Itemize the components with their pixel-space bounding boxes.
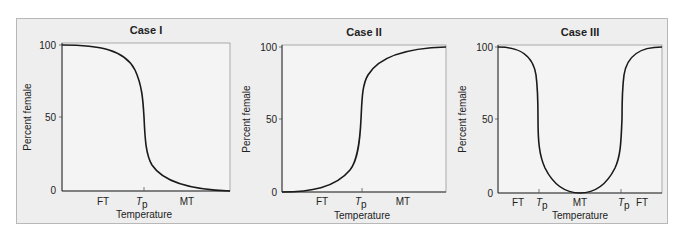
plot-area <box>498 45 662 193</box>
x-tick-ft-right: FT <box>636 197 648 208</box>
chart-title: Case II <box>346 26 381 38</box>
x-axis-label: Temperature <box>334 210 391 221</box>
svg-text:p: p <box>542 200 548 211</box>
chart-case-3: Case III 100 50 0 FT T p MT T p FT Tempe… <box>457 26 662 221</box>
y-axis-label: Percent female <box>457 85 468 153</box>
y-tick-0: 0 <box>487 188 493 199</box>
x-tick-tp: T p <box>136 196 148 210</box>
x-axis-label: Temperature <box>552 210 609 221</box>
y-tick-100: 100 <box>260 42 277 53</box>
x-tick-ft: FT <box>316 196 328 207</box>
figure-svg: Case I 100 50 0 FT T p MT Temperature Pe… <box>0 0 684 237</box>
y-axis-label: Percent female <box>241 85 252 153</box>
plot-area <box>62 43 230 191</box>
x-tick-ft: FT <box>97 196 109 207</box>
y-axis-label: Percent female <box>22 83 33 151</box>
y-tick-50: 50 <box>482 114 494 125</box>
y-tick-50: 50 <box>266 114 278 125</box>
y-tick-100: 100 <box>39 40 56 51</box>
x-tick-tp-right: T p <box>618 197 630 211</box>
x-tick-tp: T p <box>355 196 367 210</box>
x-tick-mt: MT <box>573 197 587 208</box>
y-tick-50: 50 <box>45 112 57 123</box>
x-tick-ft-left: FT <box>512 197 524 208</box>
y-tick-100: 100 <box>476 42 493 53</box>
svg-text:p: p <box>361 199 367 210</box>
chart-title: Case I <box>130 24 162 36</box>
x-tick-mt: MT <box>180 196 194 207</box>
plot-area <box>282 45 446 192</box>
y-tick-0: 0 <box>271 187 277 198</box>
chart-title: Case III <box>561 26 600 38</box>
svg-text:p: p <box>624 200 630 211</box>
chart-case-1: Case I 100 50 0 FT T p MT Temperature Pe… <box>22 24 230 220</box>
y-tick-0: 0 <box>50 185 56 196</box>
chart-case-2: Case II 100 50 0 FT T p MT Temperature P… <box>241 26 446 221</box>
x-tick-tp-left: T p <box>536 197 548 211</box>
x-tick-mt: MT <box>396 196 410 207</box>
x-axis-label: Temperature <box>116 209 173 220</box>
